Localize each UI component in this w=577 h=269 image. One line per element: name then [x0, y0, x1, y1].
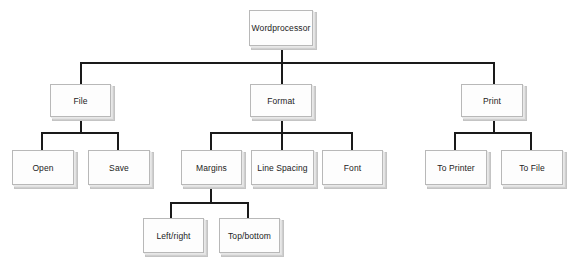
node-open: Open [12, 150, 74, 185]
node-label: Wordprocessor [252, 23, 311, 33]
connector-to-line-spacing [281, 132, 283, 150]
node-line-spacing: Line Spacing [251, 150, 314, 185]
node-font: Font [322, 150, 383, 185]
node-format: Format [250, 84, 312, 117]
node-print: Print [461, 84, 523, 117]
connector-to-font [351, 132, 353, 150]
connector-to-format [281, 62, 283, 84]
node-label: File [73, 96, 87, 106]
connector-print-down [493, 117, 495, 133]
connector-margins-down [210, 185, 212, 203]
node-label: Margins [196, 163, 227, 173]
node-label: Print [483, 96, 501, 106]
connector-level1-horizontal [80, 62, 495, 64]
connector-to-margins [210, 132, 212, 150]
node-to-printer: To Printer [425, 150, 487, 185]
node-label: To Printer [437, 163, 474, 173]
node-label: Top/bottom [228, 231, 271, 241]
connector-to-top-bottom [247, 202, 249, 218]
node-file: File [50, 84, 111, 117]
wordprocessor-hierarchy-diagram: Wordprocessor File Format Print Open Sav… [0, 0, 577, 269]
node-label: Left/right [156, 231, 190, 241]
connector-to-to-file [530, 132, 532, 150]
node-save: Save [88, 150, 150, 185]
connector-to-print [493, 62, 495, 84]
connector-format-down [281, 117, 283, 133]
node-top-bottom: Top/bottom [219, 218, 280, 253]
node-label: Line Spacing [257, 163, 307, 173]
connector-print-horizontal [454, 132, 532, 134]
connector-to-left-right [170, 202, 172, 218]
node-label: To File [519, 163, 545, 173]
node-label: Font [344, 163, 361, 173]
connector-to-open [41, 132, 43, 150]
connector-file-down [80, 117, 82, 133]
node-label: Open [32, 163, 53, 173]
node-to-file: To File [501, 150, 563, 185]
node-left-right: Left/right [143, 218, 204, 253]
connector-to-to-printer [454, 132, 456, 150]
node-label: Format [267, 96, 295, 106]
node-wordprocessor: Wordprocessor [249, 10, 313, 46]
connector-to-file [80, 62, 82, 84]
connector-to-save [117, 132, 119, 150]
connector-margins-horizontal [170, 202, 249, 204]
node-label: Save [109, 163, 129, 173]
connector-file-horizontal [41, 132, 119, 134]
node-margins: Margins [181, 150, 242, 185]
